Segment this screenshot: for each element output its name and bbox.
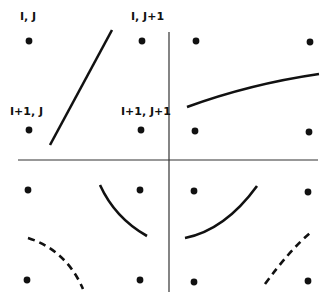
node-label-i1-j: I+1, J bbox=[10, 105, 43, 118]
node-dot bbox=[26, 127, 33, 134]
contour-line-dashed bbox=[28, 238, 83, 289]
panel-bottom-left bbox=[24, 185, 147, 289]
panel-bottom-right bbox=[185, 186, 311, 285]
node-dot bbox=[24, 277, 31, 284]
node-dot bbox=[191, 188, 198, 195]
node-dot bbox=[137, 187, 144, 194]
node-label-i1-j1: I+1, J+1 bbox=[121, 105, 171, 118]
node-dot bbox=[193, 38, 200, 45]
panel-top-right bbox=[187, 38, 319, 136]
contour-cell-diagram: I, J I, J+1 I+1, J I+1, J+1 bbox=[0, 0, 334, 307]
node-dot bbox=[139, 38, 146, 45]
contour-line-dashed bbox=[265, 233, 310, 284]
node-dot bbox=[307, 39, 314, 46]
node-dot bbox=[305, 189, 312, 196]
node-dot bbox=[305, 278, 312, 285]
node-dot bbox=[306, 129, 313, 136]
contour-line bbox=[50, 30, 112, 145]
node-dot bbox=[137, 277, 144, 284]
node-label-i-j1: I, J+1 bbox=[131, 10, 164, 23]
node-dot bbox=[138, 127, 145, 134]
node-dot bbox=[25, 187, 32, 194]
node-label-i-j: I, J bbox=[20, 10, 36, 23]
panel-top-left: I, J I, J+1 I+1, J I+1, J+1 bbox=[10, 10, 171, 145]
node-dot bbox=[191, 279, 198, 286]
contour-line bbox=[187, 74, 319, 107]
node-dot bbox=[26, 38, 33, 45]
node-dot bbox=[192, 128, 199, 135]
